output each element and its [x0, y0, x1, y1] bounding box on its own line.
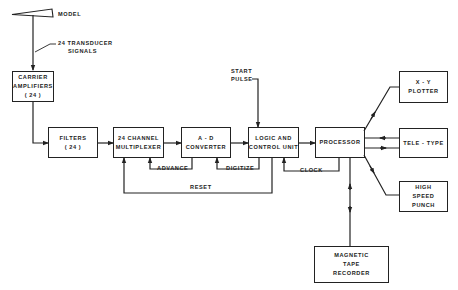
tape-line3: RECORDER [333, 269, 370, 278]
high-speed-punch-box: HIGH SPEED PUNCH [399, 181, 448, 212]
filters-line2: ( 24 ) [65, 143, 82, 152]
multiplexer-box: 24 CHANNEL MULTIPLEXER [113, 127, 164, 158]
punch-line1: HIGH [415, 183, 431, 192]
processor-box: PROCESSOR [315, 127, 365, 158]
magnetic-tape-recorder-box: MAGNETIC TAPE RECORDER [314, 246, 389, 283]
teletype-line1: TELE - TYPE [403, 139, 443, 148]
carrier-line2: AMPLIFIERS [13, 82, 53, 91]
multiplexer-line2: MULTIPLEXER [116, 143, 162, 152]
logic-line1: LOGIC AND [255, 134, 292, 143]
carrier-amplifiers-box: CARRIER AMPLIFIERS ( 24 ) [12, 71, 54, 102]
teletype-box: TELE - TYPE [399, 128, 448, 158]
digitize-label: DIGITIZE [226, 164, 254, 173]
carrier-line3: ( 24 ) [25, 91, 42, 100]
transducer-label-line2: SIGNALS [68, 47, 97, 56]
punch-line3: PUNCH [412, 201, 435, 210]
model-label: MODEL [58, 10, 81, 19]
tape-line2: TAPE [343, 260, 360, 269]
logic-line2: CONTROL UNIT [249, 143, 298, 152]
logic-control-box: LOGIC AND CONTROL UNIT [248, 127, 299, 158]
xy-plotter-box: X - Y PLOTTER [399, 71, 448, 103]
plotter-line1: X - Y [416, 78, 431, 87]
adc-line2: CONVERTER [186, 143, 227, 152]
adc-line1: A - D [198, 134, 214, 143]
multiplexer-line1: 24 CHANNEL [118, 134, 159, 143]
carrier-line1: CARRIER [18, 73, 48, 82]
processor-line1: PROCESSOR [319, 138, 360, 147]
ad-converter-box: A - D CONVERTER [181, 127, 231, 158]
start-label-line2: PULSE [231, 75, 253, 84]
filters-box: FILTERS ( 24 ) [48, 127, 98, 158]
tape-line1: MAGNETIC [334, 251, 369, 260]
filters-line1: FILTERS [59, 134, 86, 143]
clock-label: CLOCK [300, 166, 323, 175]
reset-label: RESET [190, 183, 212, 192]
punch-line2: SPEED [413, 192, 435, 201]
advance-label: ADVANCE [157, 164, 188, 173]
plotter-line2: PLOTTER [408, 87, 438, 96]
